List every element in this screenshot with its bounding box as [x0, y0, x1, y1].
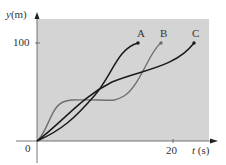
- position-time-chart: [0, 0, 226, 165]
- y-axis-arrow-icon: [35, 12, 40, 19]
- xtick-label-20: 20: [166, 145, 177, 156]
- y-axis-label: y(m): [6, 9, 27, 20]
- x-axis-var: t: [192, 144, 195, 156]
- curve-b-label: B: [160, 28, 167, 39]
- plot-area: [37, 19, 209, 141]
- curve-c-label: C: [192, 28, 199, 39]
- x-axis-unit: (s): [198, 144, 210, 156]
- curve-b-endpoint: [159, 41, 162, 44]
- y-axis-unit: (m): [11, 8, 27, 20]
- curve-a-endpoint: [136, 41, 139, 44]
- x-axis-label: t (s): [192, 145, 209, 156]
- curve-c-endpoint: [192, 41, 195, 44]
- ytick-label-100: 100: [13, 37, 30, 48]
- origin-label: 0: [25, 143, 31, 154]
- curve-a-label: A: [137, 28, 145, 39]
- x-axis-arrow-icon: [210, 139, 218, 144]
